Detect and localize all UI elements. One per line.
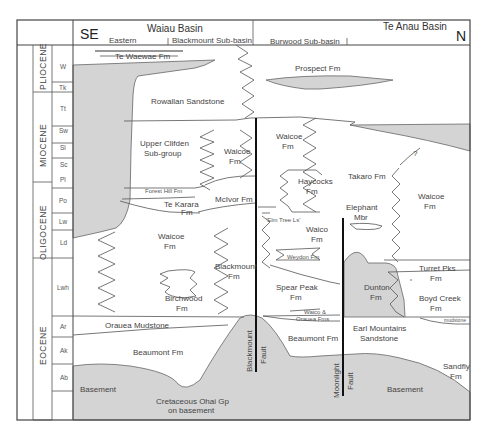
- label-beaumont-left: Beaumont Fm: [133, 348, 184, 357]
- epoch-miocene: MIOCENE: [38, 124, 48, 167]
- subbasin-eastern: Eastern: [109, 36, 137, 45]
- label-waicoe-lower: Waicoe: [158, 232, 185, 241]
- label-te-waewae: Te Waewae Fm: [115, 52, 171, 61]
- label-blackmount-fault-1: Blackmount: [245, 329, 254, 372]
- label-waicoe-center: Waicoe: [276, 132, 303, 141]
- subbasin-blackmount: Blackmount Sub-basin: [172, 36, 252, 45]
- stage-po: Po: [59, 197, 67, 204]
- label-moonlight-fault-2: Fault: [346, 371, 355, 390]
- stage-w: W: [60, 63, 67, 70]
- takaro-wedge-fill: [350, 124, 470, 151]
- epoch-eocene: EOCENE: [38, 326, 48, 365]
- label-spear-peak: Spear Peak: [276, 283, 319, 292]
- label-elephant: Elephant: [346, 203, 378, 212]
- label-boyd-creek-fm: Fm: [430, 304, 442, 313]
- label-basement-left: Basement: [80, 385, 117, 394]
- label-dunton: Dunton: [364, 283, 390, 292]
- stage-pl: Pl: [60, 176, 66, 183]
- label-waicoe-center-fm: Fm: [282, 142, 294, 151]
- label-waico-orauea-2: Orauea Fms: [296, 316, 329, 322]
- stage-ld: Ld: [60, 239, 68, 246]
- label-ohai-2: on basement: [168, 406, 215, 415]
- prospect-fm-fill: [266, 76, 393, 89]
- label-prospect: Prospect Fm: [295, 64, 341, 73]
- stage-ab: Ab: [60, 374, 68, 381]
- label-dunton-fm: Fm: [370, 293, 382, 302]
- label-blackmount-fm: Fm: [228, 272, 240, 281]
- label-waicoe-upper-fm: Fm: [229, 157, 241, 166]
- label-forest-hill: Forest Hill Fm: [145, 188, 182, 194]
- label-spear-peak-fm: Fm: [290, 293, 302, 302]
- label-ohai-1: Cretaceous Ohai Gp: [156, 397, 229, 406]
- label-moonlight-fault-1: Moonlight: [332, 363, 341, 398]
- label-boyd-creek: Boyd Creek: [419, 294, 462, 303]
- stage-tt: Tt: [60, 105, 66, 112]
- direction-right: N: [456, 28, 466, 44]
- stage-tk: Tk: [59, 84, 67, 91]
- label-turret-pks-fm: Fm: [430, 274, 442, 283]
- label-question: ?: [413, 149, 418, 158]
- stage-sw: Sw: [59, 127, 68, 134]
- label-blackmount: Blackmount: [215, 262, 258, 271]
- stage-ar: Ar: [60, 323, 67, 330]
- label-birchwood-fm: Fm: [176, 304, 188, 313]
- label-haycocks: Haycocks: [298, 177, 333, 186]
- stage-lw: Lw: [59, 218, 68, 225]
- label-haycocks-fm: Fm: [306, 187, 318, 196]
- label-birchwood: Birchwood: [165, 294, 202, 303]
- label-earl-mountains: Earl Mountains: [353, 324, 406, 333]
- stratigraphic-diagram: SE N Waiau Basin Te Anau Basin Eastern B…: [0, 0, 487, 436]
- stage-lwh: Lwh: [57, 284, 69, 291]
- label-weydon: Weydon Fm: [287, 254, 319, 260]
- epoch-pliocene: PLIOCENE: [38, 43, 48, 90]
- label-takaro: Takaro Fm: [348, 172, 386, 181]
- label-basement-right: Basement: [387, 385, 424, 394]
- label-turret-pks: Turret Pks: [419, 264, 456, 273]
- label-upper-clifden-2: Sub-group: [144, 149, 182, 158]
- basin-title-waiau: Waiau Basin: [147, 23, 203, 34]
- label-waico-fm: Fm: [311, 235, 323, 244]
- label-sandfly: Sandfly: [443, 362, 470, 371]
- label-waico: Waico: [306, 225, 328, 234]
- label-te-karara-fm: Fm: [181, 208, 193, 217]
- stage-sl: Sl: [60, 144, 66, 151]
- label-earl-sandstone: Sandstone: [360, 334, 399, 343]
- subbasin-burwood: Burwood Sub-basin: [270, 37, 340, 46]
- label-mudstone: mudstone: [444, 317, 466, 323]
- label-beaumont-right: Beaumont Fm: [288, 334, 339, 343]
- label-elephant-mbr: Mbr: [354, 213, 368, 222]
- label-elm-tree: 'Elm Tree Ls': [266, 217, 300, 223]
- label-rowallan: Rowallan Sandstone: [151, 97, 225, 106]
- basin-title-te-anau: Te Anau Basin: [383, 21, 447, 32]
- epoch-oligocene: OLIGOCENE: [38, 205, 48, 260]
- label-orauea-mudstone: Orauea Mudstone: [105, 321, 170, 330]
- label-mcivor: McIvor Fm: [215, 195, 253, 204]
- stage-ak: Ak: [60, 347, 68, 354]
- label-waicoe-upper: Waicoe: [224, 147, 251, 156]
- label-blackmount-fault-2: Fault: [259, 345, 268, 364]
- stage-labels: W Tk Tt Sw Sl Sc Pl Po Lw Ld Lwh Ar Ak A…: [57, 63, 69, 381]
- direction-left: SE: [80, 26, 99, 42]
- label-waicoe-right: Waicoe: [418, 192, 445, 201]
- label-waicoe-lower-fm: Fm: [164, 242, 176, 251]
- label-waicoe-right-fm: Fm: [424, 202, 436, 211]
- stage-sc: Sc: [60, 161, 68, 168]
- basement-fill: [73, 315, 470, 420]
- label-waico-orauea-1: Waico &: [304, 309, 326, 315]
- label-upper-clifden-1: Upper Clifden: [140, 139, 189, 148]
- label-sandfly-fm: Fm: [450, 372, 462, 381]
